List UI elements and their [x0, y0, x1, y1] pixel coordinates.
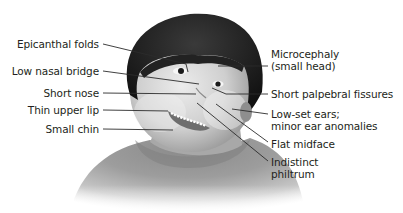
label-small-chin: Small chin: [46, 123, 100, 135]
label-microcephaly-line2: (small head): [271, 60, 339, 72]
label-indistinct-philtrum-line2: philtrum: [271, 168, 318, 180]
label-thin-upper-lip: Thin upper lip: [28, 104, 99, 116]
label-low-set-ears-line1: Low-set ears;: [271, 108, 377, 120]
label-indistinct-philtrum-line1: Indistinct: [271, 156, 318, 168]
label-microcephaly-line1: Microcephaly: [271, 48, 339, 60]
label-flat-midface: Flat midface: [271, 138, 335, 150]
label-epicanthal-folds: Epicanthal folds: [17, 38, 99, 50]
label-short-nose: Short nose: [43, 87, 99, 99]
label-short-palpebral-fissures: Short palpebral fissures: [271, 88, 393, 100]
fas-features-diagram: Epicanthal folds Low nasal bridge Short …: [0, 0, 403, 213]
label-low-set-ears: Low-set ears; minor ear anomalies: [271, 108, 377, 132]
label-low-nasal-bridge: Low nasal bridge: [12, 65, 99, 77]
label-low-set-ears-line2: minor ear anomalies: [271, 120, 377, 132]
label-indistinct-philtrum: Indistinct philtrum: [271, 156, 318, 180]
label-microcephaly: Microcephaly (small head): [271, 48, 339, 72]
